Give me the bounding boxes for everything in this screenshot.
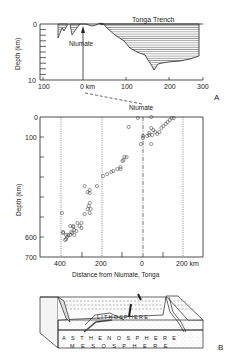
panel-scatter: 0 100 600 700 Depth (km) 400 200 0 200 k… (15, 114, 203, 279)
earthquake-point (88, 211, 91, 214)
earthquake-point (106, 172, 109, 175)
earthquake-point (139, 142, 142, 145)
earthquake-point (160, 126, 163, 129)
earthquake-point (78, 224, 81, 227)
lithosphere-label: LITHOSPHERE (97, 314, 149, 320)
earthquake-point (154, 130, 157, 133)
earthquake-point (116, 167, 119, 170)
earthquake-point (164, 122, 167, 125)
panel-a-ylabel: Depth (km) (14, 38, 22, 70)
earthquake-point (86, 207, 89, 210)
earthquake-point (60, 211, 63, 214)
earthquake-point (150, 126, 153, 129)
earthquake-point (148, 131, 151, 134)
earthquake-point (73, 233, 76, 236)
earthquake-point (127, 125, 130, 128)
panel-a-x-tick: 100 (38, 83, 50, 90)
asthenosphere-label: ASTHENOSPHERE (62, 335, 181, 341)
earthquake-point (168, 118, 171, 121)
niumate-label: Niumate (69, 40, 94, 47)
scatter-y-tick: 700 (25, 254, 37, 261)
earthquake-point (166, 120, 169, 123)
panel-a-x-tick: 100 (121, 83, 133, 90)
earthquake-point (88, 191, 91, 194)
panel-a-x-tick: 0 km (80, 83, 95, 90)
panel-b-label: B (218, 343, 223, 352)
earthquake-point (95, 184, 98, 187)
scatter-ylabel: Depth (km) (15, 184, 23, 216)
scatter-y-tick: 0 (34, 114, 38, 121)
panel-a-profile: Tonga Trench 0 10 Depth (km) 100 (14, 16, 220, 111)
earthquake-point (152, 128, 155, 131)
earthquake-point (83, 212, 86, 215)
earthquake-point (156, 132, 159, 135)
mesosphere-label: MESOSPHERE (70, 343, 174, 349)
earthquake-point (150, 142, 153, 145)
scatter-xlabel: Distance from Niumate, Tonga (72, 271, 160, 279)
earthquake-point (80, 221, 83, 224)
scatter-y-tick: 600 (25, 234, 37, 241)
scatter-points (60, 115, 175, 241)
earthquake-point (88, 188, 91, 191)
panel-a-title: Tonga Trench (132, 16, 175, 24)
earthquake-point (89, 207, 92, 210)
earthquake-point (87, 204, 90, 207)
panel-a-x-tick: 200 (164, 83, 176, 90)
earthquake-point (162, 124, 165, 127)
scatter-x-tick: 200 km (176, 260, 199, 267)
niumate-link-label: Niumate (129, 104, 154, 111)
figure: Tonga Trench 0 10 Depth (km) 100 (0, 0, 235, 364)
earthquake-point (86, 190, 89, 193)
earthquake-point (151, 133, 154, 136)
scatter-y-tick: 100 (25, 134, 37, 141)
panel-a-y-tick-0: 0 (33, 21, 37, 28)
panel-b-block-diagram: LITHOSPHERE ASTHENOSPHERE MESOSPHERE B (40, 294, 223, 352)
panel-a-label: A (214, 93, 220, 102)
scatter-x-tick: 400 (54, 260, 66, 267)
panel-a-x-tick: 300 (197, 83, 209, 90)
earthquake-point (69, 224, 72, 227)
earthquake-point (158, 130, 161, 133)
scatter-x-tick: 0 (140, 260, 144, 267)
earthquake-point (123, 155, 126, 158)
panel-a-y-tick-10: 10 (28, 77, 36, 84)
scatter-x-tick: 200 (95, 260, 107, 267)
earthquake-point (119, 167, 122, 170)
earthquake-point (101, 174, 104, 177)
earthquake-point (76, 221, 79, 224)
earthquake-point (83, 184, 86, 187)
earthquake-point (80, 226, 83, 229)
earthquake-point (88, 201, 91, 204)
